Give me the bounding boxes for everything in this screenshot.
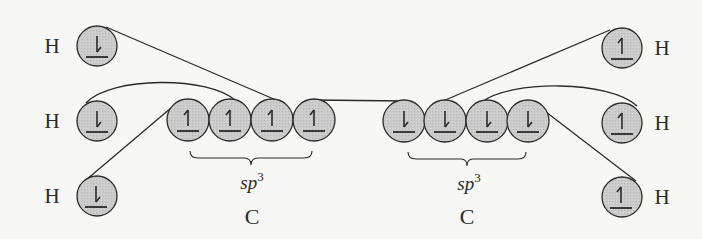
orbital-svg	[0, 0, 702, 239]
bond-lines	[86, 27, 637, 181]
left-carbon-orbitals	[167, 99, 335, 141]
right-carbon-orbitals	[383, 100, 549, 142]
left-hydrogen-orbitals	[77, 26, 117, 216]
hydrogen-label: H	[44, 34, 59, 59]
hydrogen-orbital	[77, 176, 117, 216]
right-hydrogen-orbitals	[602, 28, 642, 217]
hybrid-sup: 3	[474, 170, 481, 185]
left-hybridization-label: sp3	[240, 169, 263, 194]
bond-right-c3-h2	[482, 86, 637, 106]
bond-left-h1-c3	[106, 27, 276, 100]
right-carbon-label: C	[460, 204, 475, 230]
hydrogen-orbital	[77, 26, 117, 66]
right-brace	[408, 152, 526, 166]
bond-c-c	[314, 100, 404, 101]
left-carbon-label: C	[245, 204, 260, 230]
hybrid-base: sp	[457, 173, 474, 194]
bond-left-h2-c2	[86, 82, 236, 103]
hydrogen-label: H	[654, 36, 669, 61]
ethane-orbital-diagram: H H H H H H sp3 sp3 C C	[0, 0, 702, 239]
hydrogen-label: H	[654, 185, 669, 210]
hydrogen-orbital	[77, 101, 117, 141]
hybrid-sup: 3	[257, 169, 264, 184]
hydrogen-label: H	[44, 109, 59, 134]
hydrogen-label: H	[654, 111, 669, 136]
hybrid-base: sp	[240, 172, 257, 193]
left-brace	[190, 151, 312, 165]
bond-right-c2-h1	[443, 30, 610, 101]
right-hybridization-label: sp3	[457, 170, 480, 195]
hydrogen-label: H	[44, 184, 59, 209]
